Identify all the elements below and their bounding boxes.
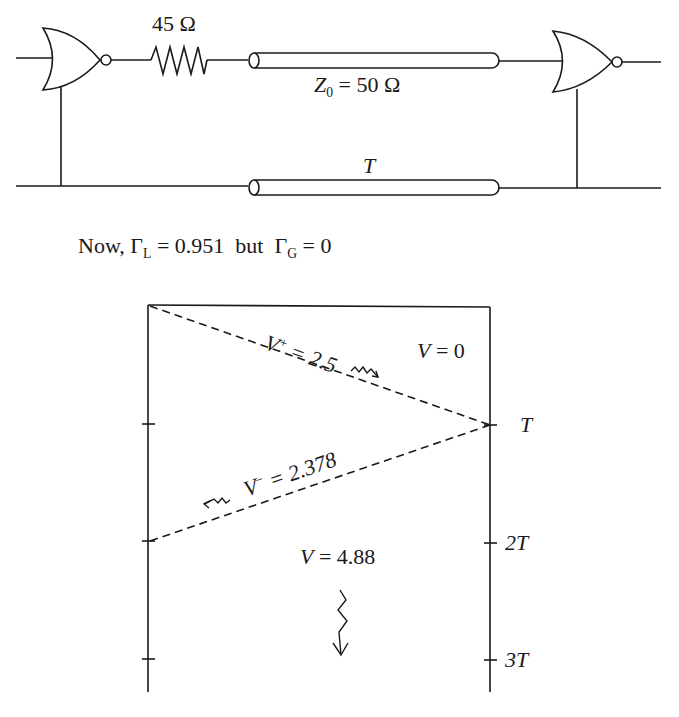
reflected-wave-trace xyxy=(150,425,490,541)
steady-voltage-symbol: V xyxy=(300,544,313,569)
impedance-symbol: Z xyxy=(314,72,326,97)
forward-direction-squiggle-arrow-icon xyxy=(351,367,378,377)
initial-voltage-value: = 0 xyxy=(430,338,464,363)
impedance-value: = 50 Ω xyxy=(333,72,400,97)
initial-voltage-label: V = 0 xyxy=(417,340,465,362)
resistor-value-label: 45 Ω xyxy=(152,13,196,35)
receiver-nor-gate xyxy=(553,31,661,92)
steady-voltage-value: = 4.88 xyxy=(313,544,375,569)
line-delay-label: T xyxy=(363,155,375,177)
transmission-line-signal xyxy=(249,53,499,68)
time-tick-label-T: T xyxy=(520,414,532,436)
statement-connector: but xyxy=(224,233,274,258)
reflection-coefficient-statement: Now, ΓL = 0.951 but ΓG = 0 xyxy=(78,235,331,260)
time-tick-label-2T: 2T xyxy=(505,532,528,554)
gamma-gen-subscript: G xyxy=(287,246,297,261)
source-resistor xyxy=(151,47,207,74)
time-tick-label-3T: 3T xyxy=(505,649,528,671)
downward-squiggle-arrow-icon xyxy=(333,590,348,655)
diagram-canvas xyxy=(0,0,679,717)
gamma-load-symbol: Γ xyxy=(130,233,143,258)
driver-nor-gate xyxy=(16,28,111,90)
gamma-gen-symbol: Γ xyxy=(274,233,287,258)
characteristic-impedance-label: Z0 = 50 Ω xyxy=(314,74,400,99)
gamma-gen-value: = 0 xyxy=(297,233,331,258)
initial-voltage-symbol: V xyxy=(417,338,430,363)
gamma-load-value: = 0.951 xyxy=(151,233,224,258)
transmission-line-return xyxy=(249,180,499,195)
statement-prefix: Now, xyxy=(78,233,130,258)
steady-voltage-label: V = 4.88 xyxy=(300,546,375,568)
reverse-direction-squiggle-arrow-icon xyxy=(204,498,230,508)
